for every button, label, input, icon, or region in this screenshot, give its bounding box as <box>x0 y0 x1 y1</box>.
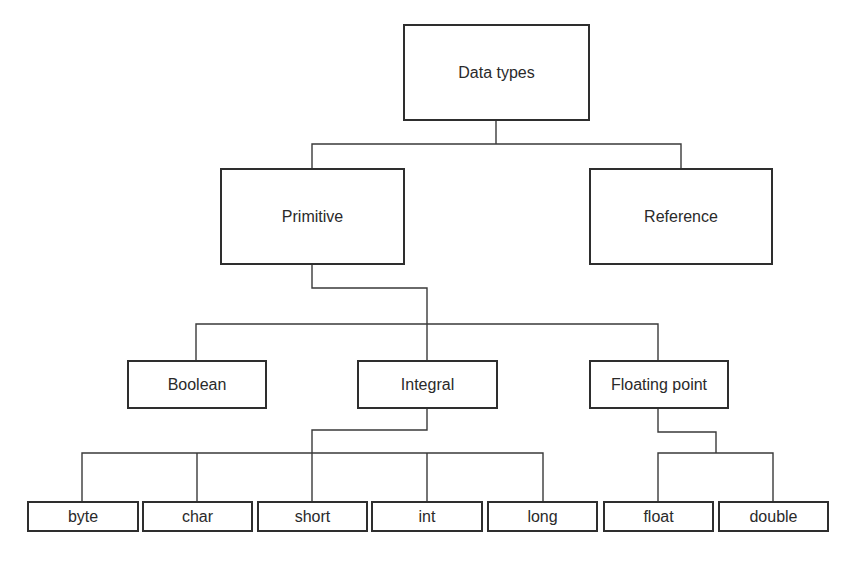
node-label: long <box>527 508 557 526</box>
node-label: Floating point <box>611 376 707 394</box>
node-floating-point: Floating point <box>589 360 729 409</box>
node-label: Boolean <box>168 376 227 394</box>
node-short: short <box>257 501 368 532</box>
node-float: float <box>603 501 714 532</box>
node-label: Primitive <box>282 208 343 226</box>
node-integral: Integral <box>357 360 498 409</box>
node-long: long <box>487 501 598 532</box>
node-label: float <box>643 508 673 526</box>
node-label: Integral <box>401 376 454 394</box>
node-reference: Reference <box>589 168 773 265</box>
node-primitive: Primitive <box>220 168 405 265</box>
node-label: short <box>295 508 331 526</box>
node-label: int <box>419 508 436 526</box>
node-byte: byte <box>27 501 139 532</box>
node-char: char <box>142 501 253 532</box>
node-int: int <box>371 501 483 532</box>
node-boolean: Boolean <box>127 360 267 409</box>
node-label: Reference <box>644 208 718 226</box>
node-label: byte <box>68 508 98 526</box>
node-label: char <box>182 508 213 526</box>
node-label: double <box>749 508 797 526</box>
node-data-types: Data types <box>403 24 590 121</box>
node-double: double <box>718 501 829 532</box>
node-label: Data types <box>458 64 534 82</box>
